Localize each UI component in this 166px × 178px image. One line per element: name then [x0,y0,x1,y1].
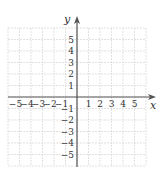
y-tick-label: −2 [61,115,74,125]
x-tick-label: 5 [132,99,138,109]
y-tick-label: −4 [61,138,75,148]
x-tick-label: 4 [120,99,126,109]
y-tick-label: −3 [61,127,75,137]
x-tick-label: 2 [97,99,103,109]
y-axis-label: y [63,13,71,26]
y-tick-label: −5 [61,150,75,160]
y-tick-label: −1 [61,104,74,114]
x-tick-label: 1 [86,99,92,109]
x-axis-label: x [150,99,157,112]
x-tick-label: 3 [109,99,115,109]
y-tick-label: 1 [68,81,74,91]
y-tick-label: 2 [68,69,74,79]
axes [8,16,156,167]
y-tick-label: 5 [68,35,74,45]
y-tick-label: 3 [68,58,74,68]
y-tick-label: 4 [68,46,74,56]
coordinate-plane: x y −5−4−3−2−112345 54321−1−2−3−4−5 [0,0,166,178]
